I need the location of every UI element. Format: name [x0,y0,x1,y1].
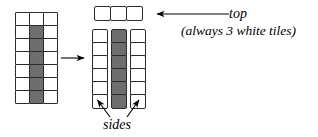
assembled-tile-white [15,90,30,104]
assembled-tile-white [43,38,58,52]
left-side-column-tile [92,94,108,109]
top-note-label: (always 3 white tiles) [181,24,296,38]
tile-tower-figure: top (always 3 white tiles) sides [0,0,318,137]
assembled-tile-white [43,25,58,39]
assembled-tile-dark [29,77,44,91]
top-label: top [229,7,247,21]
assembled-tower-grid [15,12,60,110]
assembled-tile-white [15,38,30,52]
assembled-tile-white [43,77,58,91]
assembled-tile-white [15,64,30,78]
assembled-tile-dark [29,64,44,78]
assembled-tile-white [15,12,30,26]
assembled-tile-dark [29,51,44,65]
assembled-tile-white [15,77,30,91]
assembled-tile-white [43,51,58,65]
assembled-tile-dark [29,25,44,39]
assembled-tile-white [43,64,58,78]
top-row-tile-white [110,6,127,21]
top-row-tile-white [126,6,143,21]
assembled-tile-dark [29,38,44,52]
middle-column-tile [111,94,127,109]
assembled-tile-white [43,12,58,26]
right-side-column-tile [130,94,146,109]
assembled-tile-white [15,51,30,65]
sides-label: sides [103,118,131,132]
assembled-tile-white [43,90,58,104]
assembled-tile-dark [29,90,44,104]
assembled-tile-white [15,25,30,39]
top-row-tile-white [94,6,111,21]
assembled-tile-white [29,12,44,26]
